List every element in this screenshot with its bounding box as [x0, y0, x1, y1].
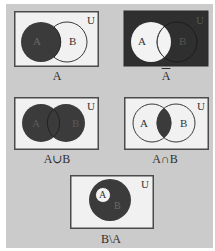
set-b-label: B: [180, 117, 187, 129]
universe-label: U: [197, 100, 205, 112]
venn-panel-a: U A B: [14, 11, 99, 67]
caption-complement-a-text: A: [162, 69, 171, 83]
set-b-label: B: [69, 35, 76, 47]
caption-complement-a: A: [136, 70, 196, 82]
caption-intersection: A∩B: [135, 153, 195, 165]
venn-panel-intersection: U A B: [124, 97, 209, 150]
set-a-label: A: [99, 189, 106, 200]
set-a-label: A: [33, 35, 41, 47]
venn-panel-union: U A B: [14, 97, 99, 150]
universe-label: U: [87, 100, 95, 112]
set-a-label: A: [138, 35, 146, 47]
universe-label: U: [141, 178, 149, 190]
caption-a: A: [27, 70, 87, 82]
universe-label: U: [87, 14, 95, 26]
set-b-label: B: [114, 200, 121, 211]
set-a-label: A: [140, 117, 148, 129]
caption-difference: B\A: [81, 233, 141, 245]
caption-union: A∪B: [27, 153, 87, 165]
venn-panel-difference: U A B: [70, 175, 154, 229]
venn-panel-complement-a: U A B: [124, 11, 209, 67]
universe-label: U: [196, 14, 204, 26]
set-b-label: B: [179, 35, 186, 47]
set-b-label: B: [72, 117, 79, 129]
set-a-label: A: [32, 117, 40, 129]
